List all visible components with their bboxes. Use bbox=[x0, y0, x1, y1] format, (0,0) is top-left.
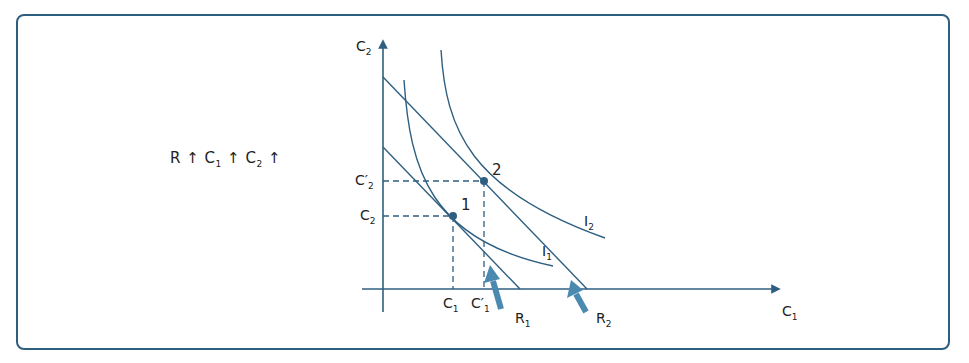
point-2-label: 2 bbox=[492, 161, 502, 179]
point-1-label: 1 bbox=[461, 196, 471, 214]
curve-i1-label: I1 bbox=[542, 243, 552, 262]
shift-arrow-r1-icon bbox=[484, 265, 501, 309]
point-1 bbox=[449, 212, 457, 220]
x-tick-c1-prime: C′1 bbox=[471, 295, 490, 314]
x-tick-c1: C1 bbox=[443, 295, 459, 314]
curve-i2-label: I2 bbox=[584, 213, 594, 232]
budget-r1-label: R1 bbox=[515, 310, 530, 329]
y-axis-label: C2 bbox=[356, 38, 372, 57]
x-axis-label: C1 bbox=[782, 303, 798, 322]
indifference-curve-i1 bbox=[404, 80, 553, 266]
point-2 bbox=[480, 177, 488, 185]
budget-r2-label: R2 bbox=[596, 310, 611, 329]
consumption-diagram: C2 C1 2 1 C′2 C2 C1 C′1 I2 I1 R1 R2 bbox=[0, 0, 969, 363]
y-tick-c2-prime: C′2 bbox=[355, 172, 374, 191]
y-tick-c2: C2 bbox=[360, 207, 376, 226]
